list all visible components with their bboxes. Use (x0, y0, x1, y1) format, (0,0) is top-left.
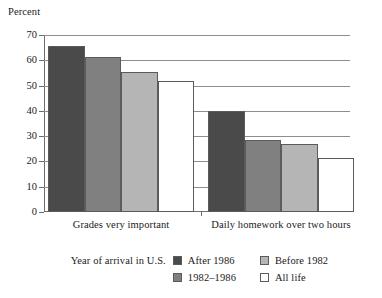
legend-label-before-1982: Before 1982 (275, 255, 328, 266)
y-axis-line (44, 35, 45, 212)
legend-label-after-1986: After 1986 (188, 255, 235, 266)
bar[interactable] (281, 144, 318, 212)
legend-entry-1982-1986[interactable]: 1982–1986 (173, 272, 260, 283)
legend-row: Year of arrival in U.S. After 1986 Befor… (57, 252, 347, 269)
bar-chart-figure: Percent 010203040506070 Grades very impo… (0, 0, 382, 298)
bar[interactable] (245, 140, 282, 212)
y-axis-tick-label: 0 (7, 207, 37, 218)
legend-entry-all-life[interactable]: All life (260, 272, 347, 283)
bar[interactable] (85, 57, 122, 213)
legend-caption: Year of arrival in U.S. (57, 255, 173, 266)
y-axis-tick (39, 161, 44, 162)
y-axis-title: Percent (8, 6, 40, 17)
y-axis-tick (39, 136, 44, 137)
y-axis-tick-label: 20 (7, 156, 37, 167)
bar[interactable] (121, 72, 158, 212)
y-axis-tick-label: 60 (7, 55, 37, 66)
legend: Year of arrival in U.S. After 1986 Befor… (57, 252, 347, 286)
bar[interactable] (318, 158, 355, 212)
gridline (44, 35, 350, 36)
y-axis-tick-label: 10 (7, 181, 37, 192)
legend-swatch-before-1982 (260, 256, 269, 265)
plot-area: 010203040506070 (44, 35, 350, 212)
y-axis-tick (39, 212, 44, 213)
y-axis-tick-label: 40 (7, 106, 37, 117)
y-axis-tick (39, 111, 44, 112)
y-axis-tick-label: 30 (7, 131, 37, 142)
y-axis-tick (39, 187, 44, 188)
legend-row: 1982–1986 All life (57, 269, 347, 286)
bar[interactable] (158, 81, 195, 212)
category-label: Grades very important (73, 219, 170, 230)
bar[interactable] (48, 46, 85, 212)
y-axis-tick (39, 35, 44, 36)
legend-label-all-life: All life (275, 272, 306, 283)
y-axis-tick-label: 50 (7, 80, 37, 91)
legend-swatch-after-1986 (173, 256, 182, 265)
bar[interactable] (208, 111, 245, 212)
legend-swatch-1982-1986 (173, 273, 182, 282)
x-axis-group-tick (201, 212, 202, 216)
legend-label-1982-1986: 1982–1986 (188, 272, 236, 283)
legend-swatch-all-life (260, 273, 269, 282)
y-axis-tick-label: 70 (7, 30, 37, 41)
y-axis-tick (39, 86, 44, 87)
legend-entry-before-1982[interactable]: Before 1982 (260, 255, 347, 266)
legend-entry-after-1986[interactable]: After 1986 (173, 255, 260, 266)
category-label: Daily homework over two hours (211, 219, 350, 230)
y-axis-tick (39, 60, 44, 61)
